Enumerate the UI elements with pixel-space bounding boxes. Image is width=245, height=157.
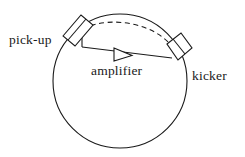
- amplifier-label: amplifier: [91, 64, 142, 78]
- amplifier-triangle: [114, 48, 132, 61]
- figure-canvas: pick-up amplifier kicker: [0, 0, 245, 157]
- pickup-label: pick-up: [9, 33, 52, 47]
- pickup-plate-rectangle: [63, 15, 93, 46]
- kicker-label: kicker: [192, 69, 227, 83]
